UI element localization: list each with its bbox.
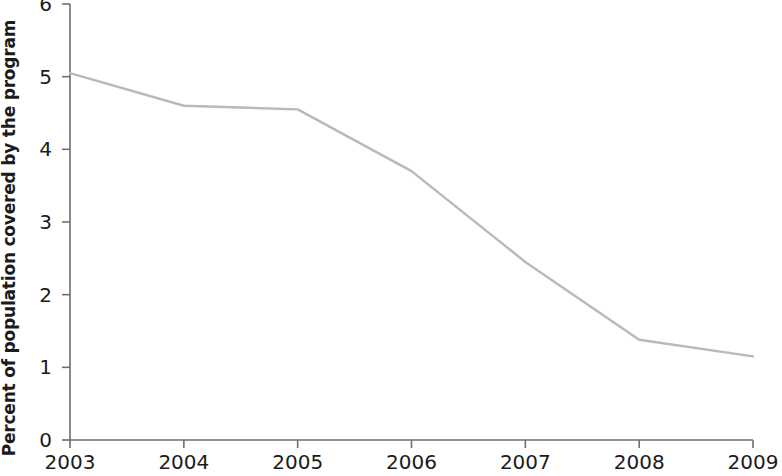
y-axis-tick-label: 5: [26, 65, 52, 89]
y-axis-tick-label: 2: [26, 283, 52, 307]
y-axis-ticks: [62, 4, 70, 440]
x-axis-tick-label: 2009: [708, 450, 782, 474]
y-axis-tick-label: 0: [26, 428, 52, 452]
x-axis-tick-label: 2005: [253, 450, 343, 474]
x-axis-tick-label: 2008: [594, 450, 684, 474]
data-series-group: [70, 73, 753, 356]
x-axis-ticks: [70, 440, 753, 448]
x-axis-tick-label: 2003: [25, 450, 115, 474]
x-axis-tick-label: 2004: [139, 450, 229, 474]
x-axis-tick-label: 2007: [480, 450, 570, 474]
y-axis-tick-label: 1: [26, 355, 52, 379]
data-series-line: [70, 73, 753, 356]
axis-lines: [70, 4, 753, 440]
x-axis-tick-label: 2006: [367, 450, 457, 474]
y-axis-tick-label: 6: [26, 0, 52, 16]
y-axis-tick-label: 3: [26, 210, 52, 234]
y-axis-tick-label: 4: [26, 137, 52, 161]
